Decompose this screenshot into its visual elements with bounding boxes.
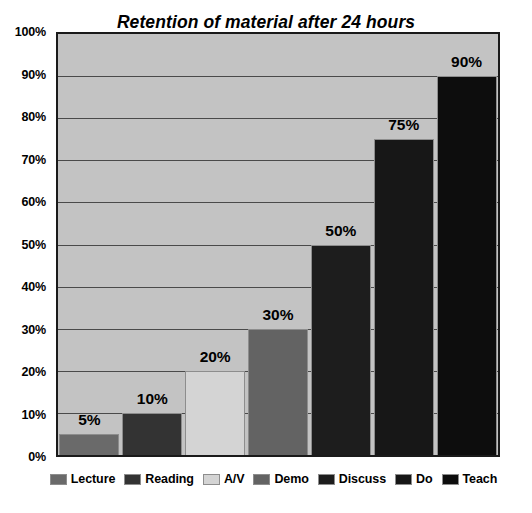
legend-swatch-icon bbox=[253, 474, 270, 485]
bar-value-label: 50% bbox=[325, 222, 356, 240]
y-axis-tick-label: 60% bbox=[22, 195, 46, 209]
legend-item-label: Demo bbox=[274, 472, 308, 486]
bar-series: 5%10%20%30%50%75%90% bbox=[58, 34, 498, 455]
bar-value-label: 20% bbox=[200, 348, 231, 366]
legend-item-label: Teach bbox=[463, 472, 498, 486]
bar-teach[interactable] bbox=[437, 76, 497, 455]
chart-legend: LectureReadingA/VDemoDiscussDoTeach bbox=[56, 468, 500, 490]
legend-item-teach[interactable]: Teach bbox=[442, 472, 498, 486]
bar-a-v[interactable] bbox=[185, 371, 245, 455]
legend-item-a-v[interactable]: A/V bbox=[203, 472, 245, 486]
legend-swatch-icon bbox=[124, 474, 141, 485]
legend-swatch-icon bbox=[395, 474, 412, 485]
legend-swatch-icon bbox=[318, 474, 335, 485]
legend-item-do[interactable]: Do bbox=[395, 472, 432, 486]
plot-area: 5%10%20%30%50%75%90% bbox=[56, 32, 500, 457]
y-axis-tick-label: 70% bbox=[22, 153, 46, 167]
y-axis-tick-label: 30% bbox=[22, 323, 46, 337]
legend-item-label: Discuss bbox=[339, 472, 386, 486]
y-axis-tick-label: 80% bbox=[22, 110, 46, 124]
y-axis-tick-label: 0% bbox=[28, 450, 46, 464]
legend-item-label: Lecture bbox=[71, 472, 115, 486]
y-axis: 0%10%20%30%40%50%60%70%80%90%100% bbox=[0, 32, 52, 457]
bar-demo[interactable] bbox=[248, 329, 308, 455]
y-axis-tick-label: 50% bbox=[22, 238, 46, 252]
legend-item-lecture[interactable]: Lecture bbox=[50, 472, 115, 486]
y-axis-tick-label: 90% bbox=[22, 68, 46, 82]
chart-title: Retention of material after 24 hours bbox=[0, 12, 532, 33]
bar-value-label: 75% bbox=[388, 116, 419, 134]
y-axis-tick-label: 40% bbox=[22, 280, 46, 294]
legend-swatch-icon bbox=[50, 474, 67, 485]
bar-value-label: 5% bbox=[78, 411, 100, 429]
legend-item-reading[interactable]: Reading bbox=[124, 472, 194, 486]
bar-do[interactable] bbox=[374, 139, 434, 455]
bar-value-label: 10% bbox=[137, 390, 168, 408]
legend-item-label: Reading bbox=[145, 472, 194, 486]
y-axis-tick-label: 10% bbox=[22, 408, 46, 422]
legend-swatch-icon bbox=[442, 474, 459, 485]
retention-bar-chart: 0%10%20%30%40%50%60%70%80%90%100% 5%10%2… bbox=[0, 0, 532, 513]
bar-discuss[interactable] bbox=[311, 245, 371, 456]
bar-value-label: 30% bbox=[262, 306, 293, 324]
legend-item-label: A/V bbox=[224, 472, 245, 486]
bar-reading[interactable] bbox=[122, 413, 182, 455]
bar-lecture[interactable] bbox=[59, 434, 119, 455]
legend-item-demo[interactable]: Demo bbox=[253, 472, 308, 486]
legend-swatch-icon bbox=[203, 474, 220, 485]
y-axis-tick-label: 20% bbox=[22, 365, 46, 379]
bar-value-label: 90% bbox=[451, 53, 482, 71]
legend-item-label: Do bbox=[416, 472, 432, 486]
legend-item-discuss[interactable]: Discuss bbox=[318, 472, 386, 486]
